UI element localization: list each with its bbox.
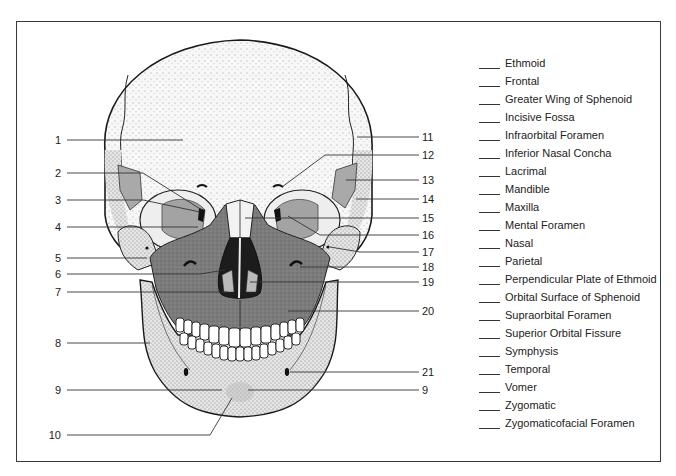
label-number-8: 8 xyxy=(41,337,61,349)
word-bank-legend: Ethmoid Frontal Greater Wing of Sphenoid… xyxy=(479,54,657,432)
label-number-9-right: 9 xyxy=(422,384,428,396)
legend-label: Superior Orbital Fissure xyxy=(505,327,621,339)
legend-item: Lacrimal xyxy=(479,162,657,180)
legend-label: Greater Wing of Sphenoid xyxy=(505,93,632,105)
answer-blank[interactable] xyxy=(479,330,500,339)
legend-label: Mental Foramen xyxy=(505,219,585,231)
label-number-15: 15 xyxy=(422,212,434,224)
answer-blank[interactable] xyxy=(479,348,500,357)
answer-blank[interactable] xyxy=(479,366,500,375)
answer-blank[interactable] xyxy=(479,276,500,285)
legend-item: Ethmoid xyxy=(479,54,657,72)
legend-item: Maxilla xyxy=(479,198,657,216)
legend-label: Symphysis xyxy=(505,345,558,357)
label-number-14: 14 xyxy=(422,193,434,205)
legend-item: Symphysis xyxy=(479,342,657,360)
label-number-18: 18 xyxy=(422,261,434,273)
legend-item: Frontal xyxy=(479,72,657,90)
answer-blank[interactable] xyxy=(479,294,500,303)
answer-blank[interactable] xyxy=(479,150,500,159)
legend-label: Frontal xyxy=(505,75,539,87)
answer-blank[interactable] xyxy=(479,186,500,195)
legend-label: Zygomaticofacial Foramen xyxy=(505,417,635,429)
legend-item: Zygomatic xyxy=(479,396,657,414)
legend-item: Zygomaticofacial Foramen xyxy=(479,414,657,432)
answer-blank[interactable] xyxy=(479,420,500,429)
legend-item: Orbital Surface of Sphenoid xyxy=(479,288,657,306)
legend-label: Supraorbital Foramen xyxy=(505,309,611,321)
legend-item: Vomer xyxy=(479,378,657,396)
answer-blank[interactable] xyxy=(479,168,500,177)
label-number-16: 16 xyxy=(422,229,434,241)
legend-item: Perpendicular Plate of Ethmoid xyxy=(479,270,657,288)
legend-label: Temporal xyxy=(505,363,550,375)
legend-label: Perpendicular Plate of Ethmoid xyxy=(505,273,657,285)
legend-label: Parietal xyxy=(505,255,542,267)
label-number-13: 13 xyxy=(422,174,434,186)
legend-item: Inferior Nasal Concha xyxy=(479,144,657,162)
answer-blank[interactable] xyxy=(479,258,500,267)
legend-label: Incisive Fossa xyxy=(505,111,575,123)
answer-blank[interactable] xyxy=(479,96,500,105)
label-number-5: 5 xyxy=(41,252,61,264)
answer-blank[interactable] xyxy=(479,240,500,249)
label-number-12: 12 xyxy=(422,149,434,161)
answer-blank[interactable] xyxy=(479,204,500,213)
answer-blank[interactable] xyxy=(479,312,500,321)
label-number-9-left: 9 xyxy=(41,384,61,396)
label-number-7: 7 xyxy=(41,286,61,298)
legend-item: Superior Orbital Fissure xyxy=(479,324,657,342)
legend-item: Infraorbital Foramen xyxy=(479,126,657,144)
legend-item: Temporal xyxy=(479,360,657,378)
legend-item: Mandible xyxy=(479,180,657,198)
label-number-6: 6 xyxy=(41,268,61,280)
legend-label: Zygomatic xyxy=(505,399,556,411)
label-number-20: 20 xyxy=(422,305,434,317)
answer-blank[interactable] xyxy=(479,114,500,123)
label-number-1: 1 xyxy=(41,134,61,146)
legend-label: Ethmoid xyxy=(505,57,545,69)
legend-label: Orbital Surface of Sphenoid xyxy=(505,291,640,303)
legend-item: Supraorbital Foramen xyxy=(479,306,657,324)
answer-blank[interactable] xyxy=(479,132,500,141)
answer-blank[interactable] xyxy=(479,60,500,69)
legend-item: Nasal xyxy=(479,234,657,252)
label-number-10: 10 xyxy=(41,429,61,441)
legend-item: Parietal xyxy=(479,252,657,270)
legend-label: Mandible xyxy=(505,183,550,195)
legend-item: Greater Wing of Sphenoid xyxy=(479,90,657,108)
legend-item: Mental Foramen xyxy=(479,216,657,234)
label-number-3: 3 xyxy=(41,194,61,206)
legend-label: Nasal xyxy=(505,237,533,249)
legend-item: Incisive Fossa xyxy=(479,108,657,126)
legend-label: Vomer xyxy=(505,381,537,393)
answer-blank[interactable] xyxy=(479,78,500,87)
label-number-11: 11 xyxy=(422,131,433,143)
legend-label: Lacrimal xyxy=(505,165,547,177)
answer-blank[interactable] xyxy=(479,384,500,393)
legend-label: Infraorbital Foramen xyxy=(505,129,604,141)
label-number-17: 17 xyxy=(422,246,434,258)
answer-blank[interactable] xyxy=(479,222,500,231)
legend-label: Maxilla xyxy=(505,201,539,213)
label-number-21: 21 xyxy=(422,366,434,378)
label-number-2: 2 xyxy=(41,167,61,179)
label-number-19: 19 xyxy=(422,276,434,288)
label-number-4: 4 xyxy=(41,221,61,233)
legend-label: Inferior Nasal Concha xyxy=(505,147,611,159)
answer-blank[interactable] xyxy=(479,402,500,411)
